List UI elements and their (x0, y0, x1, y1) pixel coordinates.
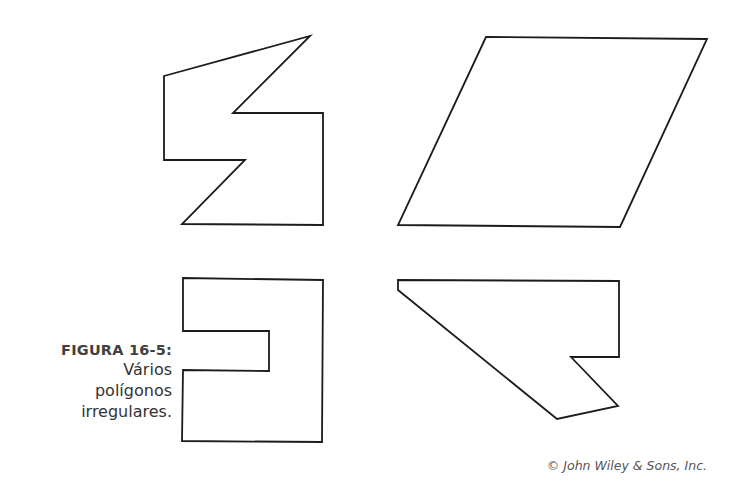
parallelogram-shape (398, 37, 707, 227)
copyright-credit: © John Wiley & Sons, Inc. (547, 458, 707, 473)
caption-line-3: irregulares. (61, 401, 172, 422)
irregular-heptagon-shape (398, 280, 619, 419)
caption-label: FIGURA 16-5: (61, 341, 172, 359)
zigzag-octagon-shape (164, 36, 323, 225)
figure: FIGURA 16-5: Vários polígonos irregulare… (0, 0, 737, 488)
figure-caption: FIGURA 16-5: Vários polígonos irregulare… (61, 341, 172, 422)
notched-rectangle-shape (182, 278, 323, 442)
caption-line-2: polígonos (61, 380, 172, 401)
caption-line-1: Vários (61, 359, 172, 380)
